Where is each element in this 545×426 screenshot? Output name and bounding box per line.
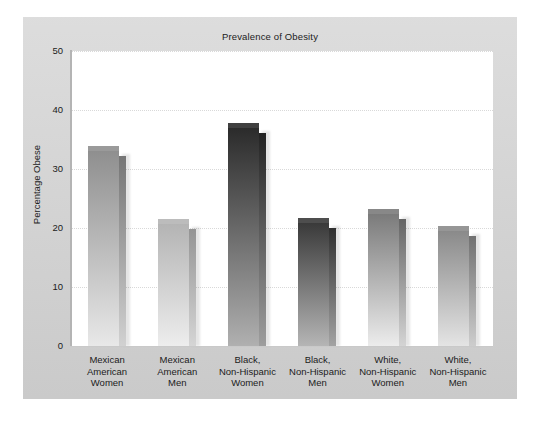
- y-tick-label-0: 0: [29, 340, 63, 351]
- chart-title: Prevalence of Obesity: [23, 31, 517, 42]
- y-tick-label-10: 10: [29, 281, 63, 292]
- bar-front-face: [438, 231, 469, 346]
- x-tick-label: Black,Non-HispanicMen: [283, 354, 353, 389]
- gridline-40: [72, 110, 493, 111]
- gridline-30: [72, 169, 493, 170]
- bar-side-face: [119, 156, 126, 346]
- bar[interactable]: [368, 214, 399, 346]
- bar-front-face: [88, 151, 119, 346]
- bar-front-face: [228, 128, 259, 346]
- bar[interactable]: [438, 231, 469, 346]
- bar[interactable]: [228, 128, 259, 346]
- bar[interactable]: [88, 151, 119, 346]
- y-tick-label-20: 20: [29, 222, 63, 233]
- bar-front-face: [158, 224, 189, 346]
- gridline-20: [72, 228, 493, 229]
- x-tick-label: White,Non-HispanicWomen: [353, 354, 423, 389]
- bar-front-face: [368, 214, 399, 346]
- bar-front-face: [298, 223, 329, 346]
- x-axis-line: [70, 346, 493, 347]
- plot-area: [72, 51, 493, 346]
- bar-side-face: [259, 133, 266, 346]
- x-tick-label: MexicanAmericanMen: [142, 354, 212, 389]
- bar-side-face: [399, 219, 406, 346]
- x-tick-label: White,Non-HispanicMen: [423, 354, 493, 389]
- y-axis-line: [70, 50, 72, 347]
- bar[interactable]: [298, 223, 329, 346]
- bar-side-face: [329, 228, 336, 346]
- y-tick-label-30: 30: [29, 163, 63, 174]
- chart-frame: Prevalence of Obesity Percentage Obese 5…: [23, 17, 517, 399]
- bar[interactable]: [158, 224, 189, 346]
- gridline-10: [72, 287, 493, 288]
- y-tick-label-40: 40: [29, 104, 63, 115]
- x-tick-label: MexicanAmericanWomen: [72, 354, 142, 389]
- gridline-50: [72, 51, 493, 52]
- y-tick-label-50: 50: [29, 45, 63, 56]
- bar-side-face: [469, 236, 476, 346]
- x-tick-label: Black,Non-HispanicWomen: [212, 354, 282, 389]
- bar-side-face: [189, 229, 196, 346]
